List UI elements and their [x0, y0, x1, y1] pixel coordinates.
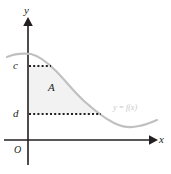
x-axis-arrowhead — [149, 135, 158, 145]
origin-label: O — [14, 145, 21, 155]
function-curve-label: y = f(x) — [113, 104, 137, 112]
y-axis-arrowhead — [23, 17, 33, 26]
shaded-region-label: A — [48, 82, 55, 93]
y-axis-label: y — [24, 5, 29, 16]
graph-canvas — [0, 0, 171, 174]
y-tick-label-d: d — [13, 108, 19, 119]
x-axis-label: x — [159, 134, 164, 145]
function-graph-figure: y x c d O A y = f(x) — [0, 0, 171, 174]
y-tick-label-c: c — [13, 60, 18, 71]
